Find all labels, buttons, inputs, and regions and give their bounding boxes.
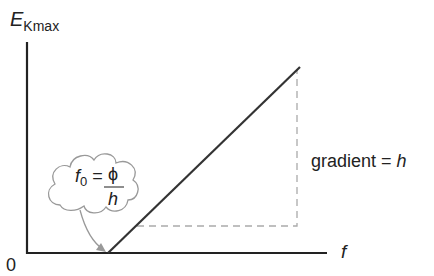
gradient-text: gradient = [311, 151, 397, 171]
y-axis-label: EKmax [10, 8, 59, 31]
origin-label: 0 [6, 255, 16, 276]
denominator: h [108, 189, 118, 210]
y-axis-label-sub: Kmax [23, 18, 59, 34]
numerator: ϕ [108, 164, 118, 185]
gradient-symbol: h [397, 151, 407, 171]
ekmax-line [108, 67, 300, 253]
f0-subscript: 0 [80, 174, 87, 189]
threshold-equation: f0 = [75, 166, 103, 187]
gradient-label: gradient = h [311, 151, 407, 172]
graph-canvas [0, 0, 434, 276]
y-axis-label-main: E [10, 8, 23, 30]
x-axis-label: f [341, 241, 346, 263]
equals-sign: = [92, 166, 103, 186]
